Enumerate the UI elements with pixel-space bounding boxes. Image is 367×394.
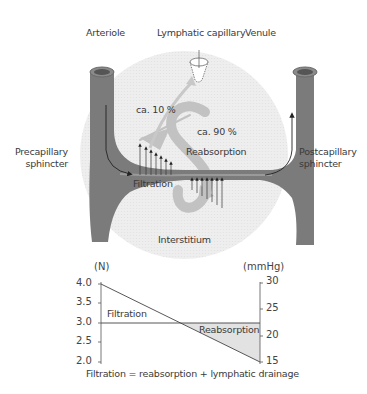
right-tick-15: 15	[266, 355, 279, 366]
chart-filtration-label: Filtration	[107, 308, 147, 320]
left-tick-3.0: 3.0	[76, 316, 92, 327]
left-tick-4.0: 4.0	[76, 277, 92, 288]
chart-caption: Filtration = reabsorption + lymphatic dr…	[86, 368, 299, 380]
pressure-chart	[98, 282, 263, 364]
lymph-percent-label: ca. 10 %	[136, 104, 176, 116]
filtration-label: Filtration	[133, 178, 173, 190]
venule-label: Venule	[245, 27, 276, 39]
interstitium-label: Interstitium	[158, 234, 211, 246]
right-axis-unit: (mmHg)	[243, 261, 284, 272]
capillary-exchange-diagram	[0, 0, 367, 394]
right-tick-20: 20	[266, 329, 279, 340]
left-tick-2.5: 2.5	[76, 335, 92, 346]
postcapillary-label-1: Postcapillary	[299, 146, 357, 158]
left-tick-2.0: 2.0	[76, 355, 92, 366]
reabsorption-percent-label: ca. 90 %	[197, 126, 237, 138]
precapillary-label-1: Precapillary	[8, 146, 68, 158]
arteriole-label: Arteriole	[86, 27, 125, 39]
reabsorption-label: Reabsorption	[186, 146, 246, 158]
left-axis-unit: (N)	[94, 261, 109, 272]
left-tick-3.5: 3.5	[76, 296, 92, 307]
chart-reabsorption-label: Reabsorption	[199, 324, 259, 336]
lymphatic-capillary-label: Lymphatic capillary	[157, 27, 245, 39]
postcapillary-label-2: sphincter	[299, 158, 342, 170]
right-tick-30: 30	[266, 275, 279, 286]
right-tick-25: 25	[266, 302, 279, 313]
precapillary-label-2: sphincter	[8, 158, 68, 170]
